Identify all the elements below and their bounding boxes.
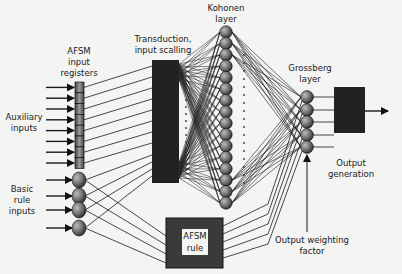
register-cell: [75, 125, 84, 136]
ellipsis-dot: [243, 182, 245, 184]
kohonen-node: [220, 106, 232, 118]
ellipsis-dot: [243, 86, 245, 88]
kohonen-node: [220, 128, 232, 140]
grossberg-node: [301, 129, 314, 142]
kohonen-node: [220, 94, 232, 106]
connection-line: [223, 101, 302, 226]
connection-line: [85, 210, 166, 254]
ellipsis-dot: [243, 54, 245, 56]
ellipsis-dot: [185, 134, 187, 136]
register-cell: [75, 136, 84, 147]
ellipsis-dot: [243, 94, 245, 96]
connection-line: [232, 32, 301, 147]
connection-line: [85, 169, 152, 210]
register-cell: [75, 158, 84, 169]
transduction-box: [152, 60, 179, 183]
ellipsis-dot: [243, 110, 245, 112]
connection-line: [179, 66, 220, 67]
kohonen-node: [220, 60, 232, 72]
register-cell: [75, 93, 84, 104]
connection-line: [84, 121, 152, 141]
connection-line: [85, 228, 166, 263]
register-cell: [75, 147, 84, 158]
connection-line: [232, 97, 301, 192]
afsm-input-registers-label: AFSM input registers: [58, 46, 100, 79]
ellipsis-dot: [243, 134, 245, 136]
kohonen-node: [220, 140, 232, 152]
ellipsis-dot: [185, 155, 187, 157]
connection-line: [85, 196, 166, 245]
connection-line: [232, 43, 301, 147]
kohonen-node: [220, 37, 232, 49]
rule-input-node: [72, 220, 86, 236]
ellipsis-dot: [243, 174, 245, 176]
ellipsis-dot: [185, 162, 187, 164]
kohonen-node: [220, 83, 232, 95]
ellipsis-dot: [185, 113, 187, 115]
register-cell: [75, 114, 84, 125]
basic-rule-inputs-label: Basic rule inputs: [4, 184, 40, 217]
output-generation-box: [334, 87, 365, 133]
ellipsis-dot: [185, 99, 187, 101]
ellipsis-dot: [243, 118, 245, 120]
kohonen-node: [220, 71, 232, 83]
ellipsis-dot: [243, 126, 245, 128]
ellipsis-dot: [243, 142, 245, 144]
ellipsis-dot: [243, 158, 245, 160]
ellipsis-dot: [185, 169, 187, 171]
grossberg-node: [301, 116, 314, 129]
transduction-label: Transduction, input scalling: [118, 34, 208, 56]
auxiliary-inputs-label: Auxiliary inputs: [2, 112, 46, 134]
ellipsis-dot: [243, 150, 245, 152]
connection-line: [232, 97, 301, 180]
grossberg-node: [301, 91, 314, 104]
kohonen-node: [220, 163, 232, 175]
connection-line: [85, 180, 166, 236]
kohonen-node: [220, 151, 232, 163]
output-generation-label: Output generation: [325, 158, 377, 180]
ellipsis-dot: [243, 78, 245, 80]
connection-line: [84, 88, 152, 109]
output-weighting-factor-label: Output weighting factor: [272, 235, 352, 257]
rule-input-node: [72, 202, 86, 218]
kohonen-layer-label: Kohonen layer: [200, 3, 252, 25]
kohonen-node: [220, 174, 232, 186]
connection-line: [84, 99, 152, 120]
kohonen-node: [220, 49, 232, 61]
ellipsis-dot: [185, 127, 187, 129]
grossberg-node: [301, 141, 314, 154]
ellipsis-dot: [185, 106, 187, 108]
kohonen-node: [220, 185, 232, 197]
ellipsis-dot: [185, 141, 187, 143]
ellipsis-dot: [243, 166, 245, 168]
grossberg-node: [301, 104, 314, 117]
connection-line: [84, 77, 152, 98]
ellipsis-dot: [185, 148, 187, 150]
kohonen-node: [220, 117, 232, 129]
connection-line: [84, 132, 152, 152]
grossberg-layer-label: Grossberg layer: [280, 63, 340, 85]
ellipsis-dot: [243, 102, 245, 104]
ellipsis-dot: [243, 62, 245, 64]
rule-input-node: [72, 172, 86, 188]
connection-line: [84, 143, 152, 163]
connection-line: [84, 110, 152, 131]
afsm-rule-label: AFSM rule: [182, 229, 208, 255]
register-cell: [75, 82, 84, 93]
kohonen-node: [220, 197, 232, 209]
connection-line: [232, 97, 301, 203]
ellipsis-dot: [185, 120, 187, 122]
register-cell: [75, 104, 84, 115]
rule-input-node: [72, 188, 86, 204]
ellipsis-dot: [243, 70, 245, 72]
kohonen-node: [220, 26, 232, 38]
connection-line: [223, 114, 302, 234]
